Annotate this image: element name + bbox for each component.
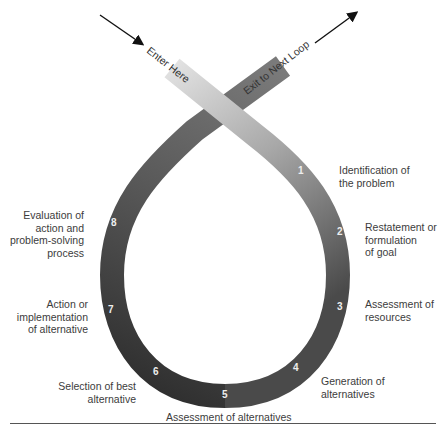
step-number-2: 2 — [337, 226, 343, 237]
step-number-4: 4 — [293, 362, 299, 373]
step-label-4: Generation of alternatives — [321, 375, 385, 400]
step-label-5: Assessment of alternatives — [166, 411, 291, 424]
bottom-rule — [10, 423, 436, 424]
step-label-2: Restatement or formulation of goal — [365, 221, 437, 259]
exit-label: Exit to Next Loop — [241, 38, 312, 97]
step-number-5: 5 — [222, 389, 228, 400]
step-label-6: Selection of best alternative — [58, 380, 136, 405]
exit-band — [112, 66, 283, 396]
enter-arrow — [100, 15, 142, 44]
step-label-7: Action or implementation of alternative — [17, 298, 88, 336]
exit-arrow — [315, 13, 356, 43]
step-label-8: Evaluation of action and problem-solving… — [10, 209, 84, 259]
step-label-1: Identification of the problem — [339, 164, 410, 189]
step-number-1: 1 — [298, 165, 304, 176]
step-label-3: Assessment of resources — [365, 298, 434, 323]
step-number-8: 8 — [111, 217, 117, 228]
step-number-6: 6 — [153, 366, 159, 377]
step-number-7: 7 — [108, 304, 114, 315]
step-number-3: 3 — [337, 301, 343, 312]
